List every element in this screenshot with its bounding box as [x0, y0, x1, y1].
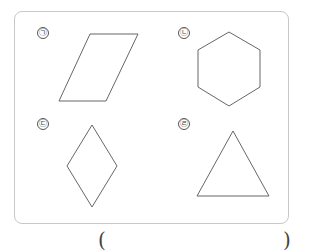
rhombus-shape [67, 125, 117, 207]
label-rieul: ㉣ [178, 118, 190, 130]
answer-blank[interactable] [110, 230, 280, 247]
answer-open-paren: ( [98, 228, 106, 252]
answer-close-paren: ) [283, 228, 291, 252]
triangle-shape [197, 131, 269, 196]
hexagon-shape [198, 32, 260, 106]
parallelogram-shape [59, 34, 138, 101]
label-giyeok: ㉠ [37, 27, 49, 39]
label-digeut: ㉢ [37, 118, 49, 130]
label-nieun: ㉡ [178, 27, 190, 39]
